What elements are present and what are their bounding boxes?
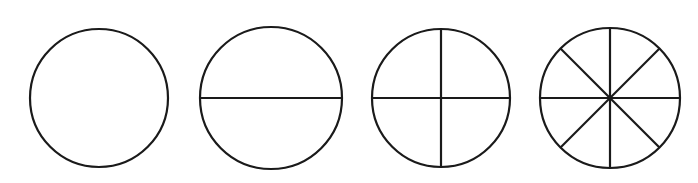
- fraction-circle-eighths: [534, 22, 686, 174]
- fraction-circle-whole: [24, 23, 174, 173]
- circle-perimeter: [30, 29, 168, 167]
- circle-outline-eighths: [534, 22, 686, 174]
- circle-outline-quarters: [366, 23, 516, 173]
- circle-outline-whole: [24, 23, 174, 173]
- circle-outline-halves: [194, 21, 348, 175]
- fraction-circles-figure: [0, 0, 698, 183]
- fraction-circle-halves: [194, 21, 348, 175]
- fraction-circle-quarters: [366, 23, 516, 173]
